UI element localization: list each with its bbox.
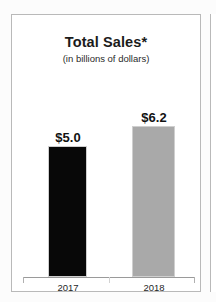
axis-tick-center [109, 277, 110, 283]
bar-value-label-2018: $6.2 [127, 110, 181, 125]
adjacent-panel-sliver [210, 14, 216, 292]
plot-area: $5.0 $6.2 2017 2018 [12, 15, 200, 291]
axis-tick-right [194, 277, 195, 283]
axis-tick-left [23, 277, 24, 283]
category-label-2017: 2017 [40, 282, 96, 293]
bar-value-label-2017: $5.0 [42, 130, 94, 145]
category-label-2018: 2018 [125, 282, 183, 293]
bar-2017 [48, 146, 87, 277]
bar-2018 [132, 126, 175, 277]
chart-panel: Total Sales* (in billions of dollars) $5… [11, 14, 201, 292]
